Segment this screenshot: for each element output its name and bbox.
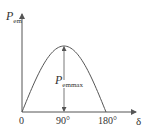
origin-label: 0 (19, 115, 24, 126)
tick-180-label: 180° (98, 115, 117, 126)
power-angle-chart: Pem Pemmax 0 90° 180° δ (0, 0, 146, 136)
tick-90-label: 90° (56, 115, 70, 126)
peak-label: Pemmax (54, 73, 83, 89)
x-axis-label: δ (136, 115, 141, 127)
y-axis-label: Pem (5, 9, 22, 25)
